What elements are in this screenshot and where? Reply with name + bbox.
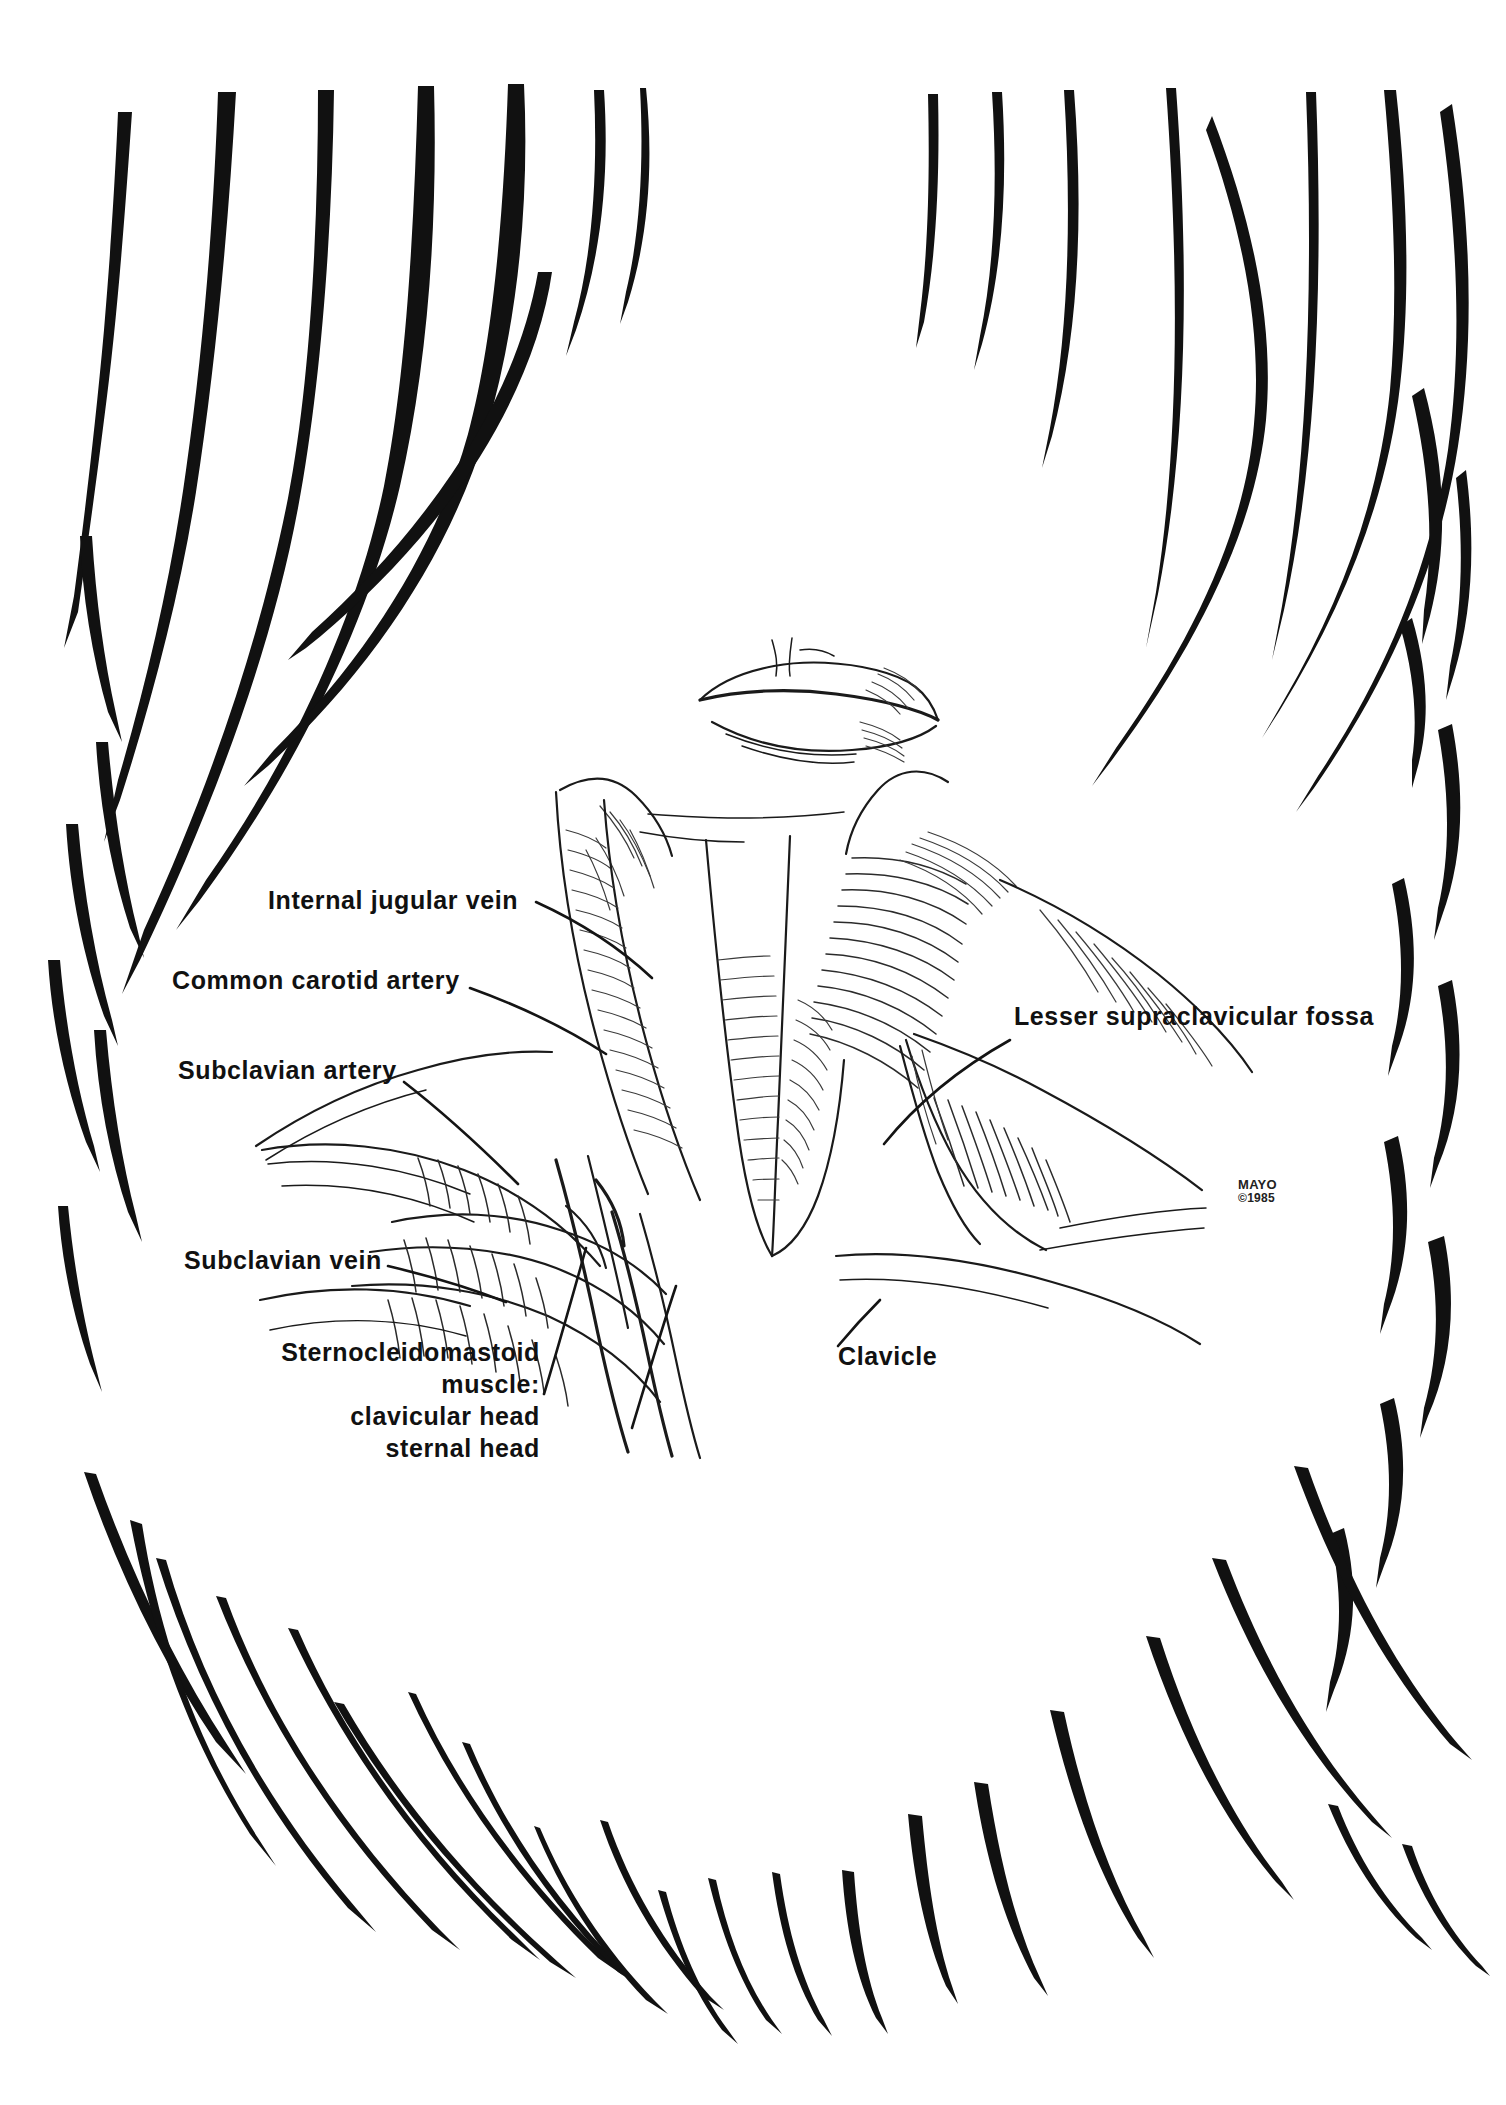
clavicle-contours xyxy=(260,1254,1200,1344)
scm-line-4: sternal head xyxy=(386,1434,540,1462)
trachea-and-jugular-notch xyxy=(706,836,844,1256)
leader-clavicular-head xyxy=(544,1248,586,1394)
illustration-page: .ln { fill:none; stroke:#1a1a1a; stroke-… xyxy=(0,0,1506,2105)
neck-shading-right xyxy=(810,832,1016,1088)
label-subclavian-vein: Subclavian vein xyxy=(184,1244,382,1276)
neck-anatomy-drawing xyxy=(256,638,1252,1458)
scm-line-2: muscle: xyxy=(441,1370,540,1398)
leader-internal-jugular-vein xyxy=(536,902,652,978)
trapezius-right xyxy=(1000,880,1252,1072)
scm-line-1: Sternocleidomastoid xyxy=(281,1338,540,1366)
label-subclavian-artery: Subclavian artery xyxy=(178,1054,397,1086)
scm-line-3: clavicular head xyxy=(350,1402,540,1430)
label-clavicle: Clavicle xyxy=(838,1340,937,1372)
label-common-carotid-artery: Common carotid artery xyxy=(172,964,460,996)
anatomical-plate: .ln { fill:none; stroke:#1a1a1a; stroke-… xyxy=(0,0,1506,2105)
label-internal-jugular-vein: Internal jugular vein xyxy=(268,884,518,916)
mayo-credit: MAYO ©1985 xyxy=(1238,1178,1277,1204)
jawline xyxy=(560,772,948,910)
copyright-year: ©1985 xyxy=(1238,1192,1277,1205)
label-lesser-supraclavicular-fossa: Lesser supraclavicular fossa xyxy=(1014,1000,1374,1032)
label-sternocleidomastoid-muscle: Sternocleidomastoid muscle: clavicular h… xyxy=(120,1336,540,1464)
sternocleidomastoid-left xyxy=(556,792,700,1200)
mayo-wordmark: MAYO xyxy=(1238,1178,1277,1192)
supraclavicular-fossa-right xyxy=(900,1034,1206,1250)
vessel-strands xyxy=(556,1156,700,1458)
mouth-and-chin xyxy=(700,638,938,763)
